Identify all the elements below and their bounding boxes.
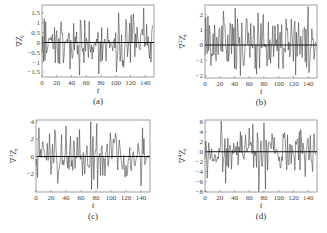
y-tick-label: −2 [196, 72, 204, 80]
subplot-c: 020406080100120140−2024t(c)∇3Zt [8, 118, 150, 221]
y-tick-label: 1.5 [31, 9, 40, 17]
x-tick-label: 140 [303, 80, 314, 88]
y-tick-label: −2 [27, 170, 35, 178]
x-tick-label: 40 [231, 80, 239, 88]
x-tick-label: 20 [216, 80, 224, 88]
y-tick-label: 0 [200, 41, 204, 49]
subplot-caption: (c) [88, 211, 98, 221]
subplot-d: 020406080100120140−8−6−4−20246t(d)∇4Zt [177, 118, 317, 221]
y-tick-label: −1 [33, 59, 41, 67]
y-tick-label: −0.5 [27, 49, 40, 57]
y-tick-label: 1 [37, 19, 41, 27]
x-tick-label: 140 [140, 79, 151, 87]
x-tick-label: 120 [125, 79, 136, 87]
x-tick-label: 0 [40, 79, 44, 87]
x-tick-label: 120 [288, 194, 299, 202]
x-tick-label: 60 [78, 194, 86, 202]
y-tick-label: 1 [200, 26, 204, 34]
y-axis-label: ∇2Zt [177, 34, 188, 49]
y-tick-label: 4 [31, 118, 35, 126]
x-tick-label: 100 [273, 80, 284, 88]
y-tick-label: 0 [31, 153, 35, 161]
x-tick-label: 0 [34, 194, 38, 202]
y-tick-label: 2 [200, 11, 204, 19]
x-tick-label: 100 [273, 194, 284, 202]
y-axis-label: ∇Zt [15, 35, 25, 47]
x-axis-label: t [260, 201, 263, 210]
subplot-caption: (d) [256, 211, 267, 221]
y-tick-label: −2 [196, 158, 204, 166]
x-axis-label: t [92, 201, 95, 210]
x-axis-label: t [260, 87, 263, 96]
y-tick-label: −1 [196, 57, 204, 65]
x-tick-label: 100 [106, 194, 117, 202]
x-tick-label: 40 [63, 194, 71, 202]
subplot-caption: (a) [93, 96, 103, 106]
x-tick-label: 40 [231, 194, 239, 202]
x-axis-label: t [97, 86, 100, 95]
y-tick-label: 2 [31, 135, 35, 143]
x-tick-label: 140 [303, 194, 314, 202]
y-axis-label: ∇3Zt [8, 148, 19, 163]
plot-frame [205, 5, 317, 78]
x-tick-label: 0 [203, 194, 207, 202]
y-tick-label: −1.5 [27, 68, 40, 76]
x-tick-label: 60 [83, 79, 91, 87]
x-tick-label: 20 [53, 79, 61, 87]
y-tick-label: 2 [200, 138, 204, 146]
y-tick-label: 0.5 [31, 29, 40, 37]
x-tick-label: 0 [203, 80, 207, 88]
x-tick-label: 20 [216, 194, 224, 202]
y-tick-label: 0 [37, 39, 41, 47]
x-tick-label: 140 [136, 194, 147, 202]
y-tick-label: −8 [196, 188, 204, 196]
y-tick-label: 4 [200, 128, 204, 136]
subplot-a: 020406080100120140−1.5−1−0.500.511.5t(a)… [15, 5, 154, 106]
y-tick-label: 6 [200, 118, 204, 126]
y-tick-label: −6 [196, 178, 204, 186]
x-tick-label: 60 [246, 80, 254, 88]
x-tick-label: 20 [48, 194, 56, 202]
x-tick-label: 40 [68, 79, 76, 87]
x-tick-label: 60 [246, 194, 254, 202]
subplot-b: 020406080100120140−2−1012t(b)∇2Zt [177, 5, 317, 107]
x-tick-label: 100 [110, 79, 121, 87]
figure-canvas: 020406080100120140−1.5−1−0.500.511.5t(a)… [0, 0, 327, 233]
y-tick-label: −4 [196, 168, 204, 176]
x-tick-label: 120 [121, 194, 132, 202]
y-tick-label: 0 [200, 148, 204, 156]
x-tick-label: 120 [288, 80, 299, 88]
y-axis-label: ∇4Zt [177, 148, 188, 163]
subplot-caption: (b) [256, 97, 267, 107]
